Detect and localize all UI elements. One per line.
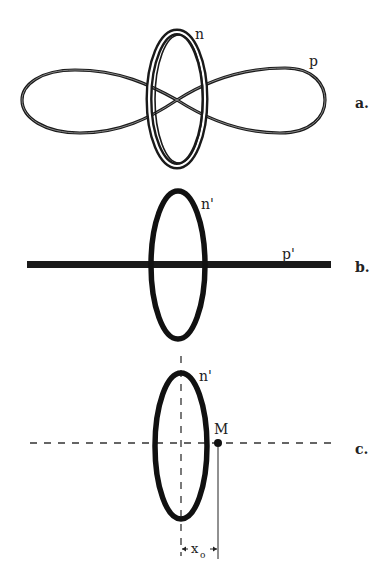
panel-b-label: b. — [355, 259, 370, 275]
p-prime-label: p' — [282, 246, 295, 262]
panel-a-label: a. — [355, 95, 369, 111]
arrow-left-icon — [182, 547, 186, 552]
panel-c: x o n' M c. — [30, 356, 368, 560]
distance-subscript: o — [200, 550, 205, 560]
orbital-diagram: n p a. n' p' b. x o n' M c. — [0, 0, 392, 582]
panel-a: n p a. — [22, 26, 369, 166]
distance-dimension: x o — [182, 541, 217, 560]
arrow-right-icon — [213, 547, 217, 552]
distance-label: x — [191, 541, 199, 556]
n-label: n — [195, 26, 204, 42]
p-orbital-figure-eight — [22, 68, 325, 133]
p-label: p — [309, 53, 318, 69]
point-m-label: M — [214, 421, 228, 437]
n-prime-label-c: n' — [199, 368, 212, 384]
p-prime-bar — [27, 261, 331, 268]
n-prime-label: n' — [201, 196, 214, 212]
panel-c-label: c. — [355, 441, 368, 457]
point-m-dot — [214, 439, 222, 447]
panel-b: n' p' b. — [27, 191, 370, 339]
